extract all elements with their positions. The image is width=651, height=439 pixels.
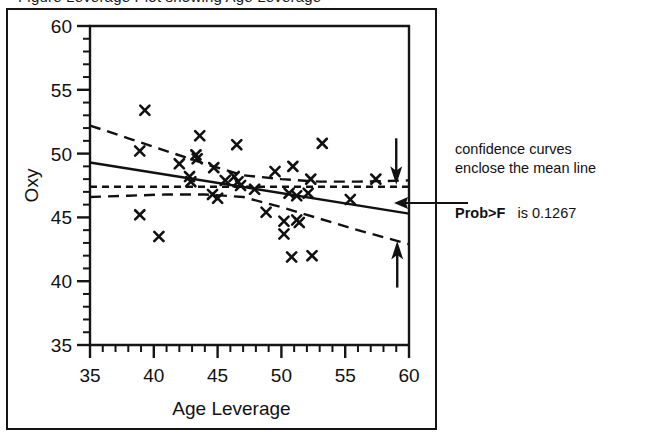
x-tick-label: 55 [335, 365, 356, 386]
prob-f-value: is 0.1267 [517, 205, 576, 221]
y-tick-label: 35 [51, 335, 72, 356]
y-tick-label: 40 [51, 271, 72, 292]
scatter-point [306, 175, 315, 184]
fitted-mean-line [90, 163, 409, 214]
up-arrow-icon [391, 241, 403, 288]
scatter-point [135, 210, 144, 219]
x-tick-label: 50 [271, 365, 292, 386]
scatter-point [346, 195, 355, 204]
x-tick-label: 45 [207, 365, 228, 386]
y-tick-label: 55 [51, 80, 72, 101]
x-tick-label: 60 [398, 365, 419, 386]
y-axis-title: Oxy [21, 168, 42, 202]
scatter-point [135, 146, 144, 155]
scatter-point [318, 139, 327, 148]
scatter-point [279, 229, 288, 238]
leverage-plot-figure: Figure Leverage Plot showing Age Leverag… [0, 0, 651, 439]
scatter-point [195, 131, 204, 140]
y-tick-label: 45 [51, 207, 72, 228]
scatter-point [270, 167, 279, 176]
scatter-point [261, 208, 270, 217]
pointer-arrow-svg [390, 190, 470, 220]
x-tick-label: 40 [143, 365, 164, 386]
scatter-point [287, 252, 296, 261]
scatter-point [175, 159, 184, 168]
chart-canvas: 354045505560354045505560OxyAge Leverage [8, 10, 434, 427]
down-arrow-icon [390, 138, 402, 185]
scatter-point [295, 218, 304, 227]
fitted-line-layer [90, 163, 409, 214]
clipped-figure-caption: Figure Leverage Plot showing Age Leverag… [18, 0, 321, 5]
annotation-block: confidence curves enclose the mean line … [455, 140, 651, 221]
annotation-line-1: confidence curves [455, 140, 651, 159]
plot-outer-frame: 354045505560354045505560OxyAge Leverage [6, 8, 437, 430]
scatter-point [288, 162, 297, 171]
axes-layer [77, 26, 409, 358]
scatter-point [154, 232, 163, 241]
scatter-point [279, 217, 288, 226]
prob-f-annotation: Prob>F is 0.1267 [455, 205, 651, 221]
y-tick-label: 60 [51, 16, 72, 37]
scatter-point [307, 251, 316, 260]
annotation-line-2: enclose the mean line [455, 159, 651, 178]
x-axis-title: Age Leverage [172, 398, 290, 419]
y-tick-label: 50 [51, 144, 72, 165]
x-tick-label: 35 [79, 365, 100, 386]
scatter-point [232, 140, 241, 149]
scatter-point [140, 106, 149, 115]
scatter-points-layer [135, 106, 380, 262]
confidence-curve [90, 194, 409, 244]
